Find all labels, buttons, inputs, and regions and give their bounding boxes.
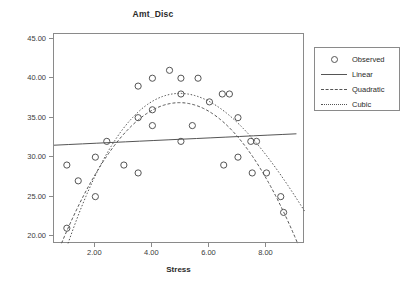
solid-line-icon <box>321 74 347 75</box>
y-tick-label: 45.00 <box>0 33 46 42</box>
plot-canvas <box>54 34 305 244</box>
observed-point-marker <box>149 75 155 81</box>
observed-point-marker <box>219 91 225 97</box>
y-tick-label: 40.00 <box>0 73 46 82</box>
observed-point-marker <box>178 75 184 81</box>
observed-point-marker <box>92 194 98 200</box>
x-tick-label: 2.00 <box>74 248 114 257</box>
observed-point-marker <box>263 170 269 176</box>
observed-point-marker <box>235 115 241 121</box>
y-tick-label: 35.00 <box>0 112 46 121</box>
observed-point-marker <box>178 91 184 97</box>
observed-point-marker <box>121 162 127 168</box>
legend-label: Linear <box>349 70 373 79</box>
x-tick-label: 4.00 <box>131 248 171 257</box>
observed-point-marker <box>189 122 195 128</box>
legend-item[interactable]: Quadratic <box>315 82 399 97</box>
x-axis-title: Stress <box>53 265 304 274</box>
observed-point-marker <box>166 67 172 73</box>
legend-item[interactable]: Observed <box>315 52 399 67</box>
legend-label: Cubic <box>349 100 371 109</box>
observed-point-marker <box>278 194 284 200</box>
plot-area <box>53 33 304 243</box>
observed-point-marker <box>104 138 110 144</box>
circle-marker-icon <box>331 56 338 63</box>
y-tick-label: 30.00 <box>0 152 46 161</box>
quadratic-fit-line <box>54 103 305 244</box>
x-tick-label: 8.00 <box>245 248 285 257</box>
legend-glyph <box>319 68 349 82</box>
observed-point-marker <box>221 162 227 168</box>
x-tick-label: 6.00 <box>188 248 228 257</box>
observed-points-group <box>64 67 287 231</box>
chart-title: Amt_Disc <box>0 9 306 19</box>
observed-point-marker <box>195 75 201 81</box>
observed-point-marker <box>149 122 155 128</box>
observed-point-marker <box>135 83 141 89</box>
observed-point-marker <box>149 107 155 113</box>
chart-screenshot: Amt_Disc 20.0025.0030.0035.0040.0045.00 … <box>0 0 406 290</box>
observed-point-marker <box>135 170 141 176</box>
dashed-line-icon <box>321 89 347 90</box>
legend-label: Quadratic <box>349 85 385 94</box>
observed-point-marker <box>64 225 70 231</box>
legend-item[interactable]: Linear <box>315 67 399 82</box>
legend-glyph <box>319 83 349 97</box>
cubic-fit-line <box>61 93 305 244</box>
chart-legend: ObservedLinearQuadraticCubic <box>314 47 400 111</box>
legend-label: Observed <box>349 55 385 64</box>
y-tick-label: 25.00 <box>0 191 46 200</box>
observed-point-marker <box>92 154 98 160</box>
observed-point-marker <box>64 162 70 168</box>
linear-fit-line <box>54 134 296 145</box>
legend-item[interactable]: Cubic <box>315 97 399 112</box>
observed-point-marker <box>75 178 81 184</box>
legend-glyph <box>319 53 349 67</box>
observed-point-marker <box>226 91 232 97</box>
y-tick-label: 20.00 <box>0 231 46 240</box>
legend-glyph <box>319 98 349 112</box>
observed-point-marker <box>235 154 241 160</box>
observed-point-marker <box>249 170 255 176</box>
dotted-line-icon <box>321 104 347 105</box>
